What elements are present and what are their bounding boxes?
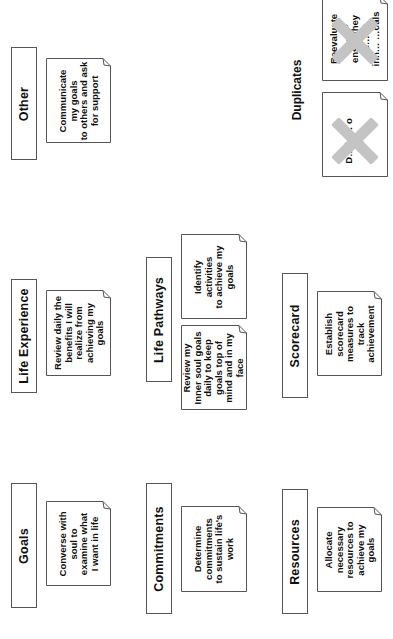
category-label-other: Other [11,47,37,160]
category-label-text: Scorecard [288,304,302,367]
category-label-resources: Resources [282,489,308,614]
note-text: Identifyactivitiesto achieve mygoals [193,245,235,308]
sticky-note-crossed-out: D… id… op… e [322,92,388,177]
note-text: Converse withsoul toexamine whatI want i… [57,511,99,576]
category-label-commitments: Commitments [146,483,172,614]
sticky-note: Converse withsoul toexamine whatI want i… [46,501,111,586]
sticky-note-crossed-out: Reevaluatem… toens… theyre… ntinn… …oals [322,0,388,81]
note-text: Reevaluatem… toens… theyre… ntinn… …oals [329,11,382,66]
duplicates-heading-text: Duplicates [290,60,304,121]
category-label-text: Life Experience [17,288,31,383]
note-text: Communicatemy goalsto others and askfor … [57,61,99,140]
category-label-text: Other [17,86,31,120]
sticky-note: Communicatemy goalsto others and askfor … [46,58,111,143]
note-text: Review myInner soul goalsdaily to keepgo… [182,331,246,404]
note-text: D… id… op… e [344,118,365,163]
sticky-note: Determinecommitmentsto sustain life'swor… [181,506,247,592]
category-label-life-pathways: Life Pathways [146,257,172,382]
note-text: Determinecommitmentsto sustain life'swor… [193,515,235,584]
note-text: Establishscorecardmeasures totrackachiev… [323,305,376,363]
note-text: Review daily thebenefits I willrealize f… [52,296,105,370]
note-text: Allocatenecessaryresources toachieve myg… [323,521,376,578]
category-label-text: Commitments [152,506,166,592]
sticky-note: Review myInner soul goalsdaily to keepgo… [181,325,247,410]
sticky-note: Review daily thebenefits I willrealize f… [46,290,111,376]
sticky-note: Establishscorecardmeasures totrackachiev… [317,291,382,376]
category-label-scorecard: Scorecard [282,273,308,398]
sticky-note: Allocatenecessaryresources toachieve myg… [317,507,382,592]
category-label-goals: Goals [11,483,37,608]
category-label-text: Life Pathways [152,277,166,363]
category-label-life-experience: Life Experience [11,279,37,393]
category-label-text: Goals [17,528,31,564]
category-label-text: Resources [288,519,302,585]
sticky-note: Identifyactivitiesto achieve mygoals [181,234,247,319]
